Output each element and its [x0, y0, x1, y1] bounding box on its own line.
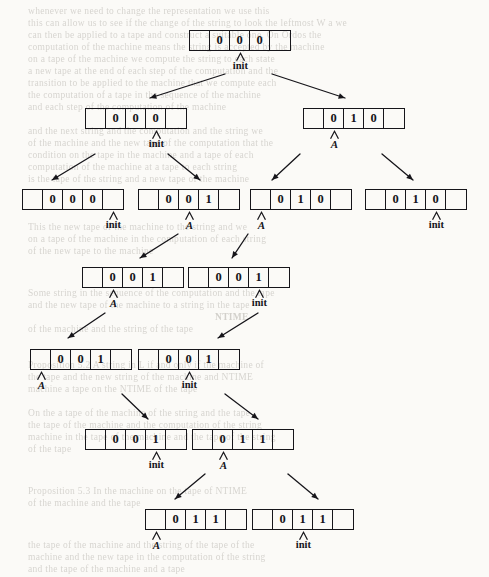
tape-cell: 0 [324, 109, 344, 128]
tape-cells: 010 [365, 189, 467, 210]
tape-cell [190, 31, 210, 50]
pointer-label: A [110, 298, 117, 309]
head-pointer: init [179, 370, 199, 391]
tape-node: 000init [22, 189, 124, 210]
tape-cell [226, 510, 246, 529]
tape-cells: 001 [138, 189, 240, 210]
tape-cell: 0 [179, 350, 199, 369]
tape-cell: 0 [123, 268, 143, 287]
pointer-label: init [106, 220, 121, 231]
tape-cells: 011 [145, 509, 247, 530]
head-pointer: init [230, 51, 250, 72]
tape-cells: 001 [30, 349, 132, 370]
tape-cell [111, 350, 131, 369]
tape-cell: 0 [159, 350, 179, 369]
tape-cell: 1 [199, 190, 219, 209]
tape-node: 010A [250, 189, 352, 210]
tape-cells: 001 [82, 267, 184, 288]
tape-node: 011A [192, 429, 294, 450]
tape-cell: 0 [179, 190, 199, 209]
tape-cell [86, 430, 106, 449]
head-pointer: init [293, 530, 313, 551]
tape-cell: 0 [43, 190, 63, 209]
tape-cells: 001 [138, 349, 240, 370]
tape-cell: 1 [253, 430, 273, 449]
tape-cell [304, 109, 324, 128]
tape-cell [253, 510, 273, 529]
tape-cell: 0 [230, 31, 250, 50]
tape-cell [273, 430, 293, 449]
tape-cell: 0 [126, 430, 146, 449]
tape-cell [193, 430, 213, 449]
tape-cell: 1 [406, 190, 426, 209]
head-pointer: init [146, 450, 166, 471]
pointer-label: A [331, 139, 338, 150]
tape-cell: 1 [143, 268, 163, 287]
tape-cells: 010 [250, 189, 352, 210]
tape-cell: 0 [311, 190, 331, 209]
pointer-label: init [233, 61, 248, 72]
head-pointer: A [324, 129, 344, 150]
tape-cell: 0 [106, 430, 126, 449]
head-pointer: A [103, 288, 123, 309]
tape-cell [270, 31, 290, 50]
head-pointer: A [146, 530, 166, 551]
tape-cells: 000 [22, 189, 124, 210]
tape-cell [166, 109, 186, 128]
head-pointer: init [249, 288, 269, 309]
tape-cell: 1 [344, 109, 364, 128]
tape-cell: 1 [293, 510, 313, 529]
tape-cell [139, 350, 159, 369]
tape-cell [219, 190, 239, 209]
tape-cell [219, 350, 239, 369]
pointer-label: A [153, 540, 160, 551]
tape-cell [251, 190, 271, 209]
head-pointer: init [146, 129, 166, 150]
tape-cell [446, 190, 466, 209]
tape-cell: 0 [166, 510, 186, 529]
tape-cell: 0 [426, 190, 446, 209]
tape-node: 001A [138, 189, 240, 210]
tape-cell: 1 [91, 350, 111, 369]
tape-cell: 0 [250, 31, 270, 50]
tape-cell [31, 350, 51, 369]
head-pointer: A [31, 370, 51, 391]
pointer-label: A [38, 380, 45, 391]
tape-cell: 1 [291, 190, 311, 209]
tape-node: 011A [145, 509, 247, 530]
head-pointer: init [103, 210, 123, 231]
pointer-label: A [220, 460, 227, 471]
pointer-label: init [252, 298, 267, 309]
tape-cell [163, 268, 183, 287]
tape-cell: 0 [213, 430, 233, 449]
pointer-label: A [186, 220, 193, 231]
tape-cell: 1 [199, 350, 219, 369]
tape-node: 001init [85, 429, 187, 450]
tape-cell: 0 [126, 109, 146, 128]
pointer-label: init [149, 460, 164, 471]
head-pointer: A [251, 210, 271, 231]
tape-cell [146, 510, 166, 529]
head-pointer: A [179, 210, 199, 231]
tape-cell: 0 [209, 268, 229, 287]
head-pointer: A [213, 450, 233, 471]
computation-tree: 000init000init010A000init001A010A010init… [0, 0, 489, 577]
tape-cell: 0 [386, 190, 406, 209]
tape-cell: 0 [103, 268, 123, 287]
tape-cell: 0 [273, 510, 293, 529]
pointer-label: A [258, 220, 265, 231]
tape-cell [366, 190, 386, 209]
tape-cell [139, 190, 159, 209]
pointer-label: init [182, 380, 197, 391]
tape-cell [189, 268, 209, 287]
tape-cell [331, 190, 351, 209]
tape-cell [103, 190, 123, 209]
tape-node: 001A [82, 267, 184, 288]
tape-cell: 0 [106, 109, 126, 128]
tape-node: 010init [365, 189, 467, 210]
tape-node: 010A [303, 108, 405, 129]
tape-cell: 0 [63, 190, 83, 209]
tape-cell [269, 268, 289, 287]
tape-cell: 1 [233, 430, 253, 449]
tape-cell [83, 268, 103, 287]
